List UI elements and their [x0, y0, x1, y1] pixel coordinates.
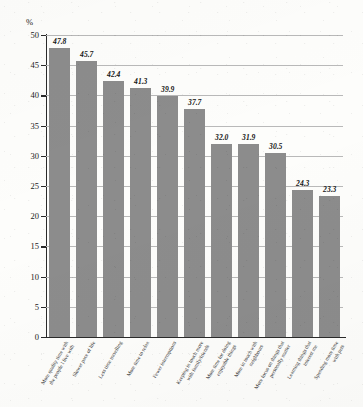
category-label-line: Fewer interruptions: [151, 340, 178, 379]
plot-area: 05101520253035404550 47.845.742.441.339.…: [46, 35, 343, 337]
y-axis-tick-mark: [41, 337, 46, 338]
bar-value-label: 31.9: [242, 133, 255, 142]
bar[interactable]: [103, 81, 125, 337]
bar[interactable]: [184, 109, 206, 337]
bar-group[interactable]: 32.0: [211, 35, 233, 337]
bar-group[interactable]: 30.5: [265, 35, 287, 337]
x-axis-category-label: Fewer interruptions: [151, 340, 178, 379]
bar-value-label: 32.0: [215, 133, 228, 142]
bar-value-label: 47.8: [53, 37, 66, 46]
bar[interactable]: [76, 61, 98, 337]
bar-group[interactable]: 31.9: [238, 35, 260, 337]
bar-value-label: 42.4: [107, 70, 120, 79]
bar[interactable]: [319, 196, 341, 337]
y-axis-tick-label: 25: [31, 181, 40, 191]
y-axis-tick-label: 5: [35, 302, 39, 312]
y-axis-tick-label: 10: [31, 272, 40, 282]
y-axis-tick-label: 20: [31, 211, 40, 221]
category-label-line: Less time travelling: [96, 340, 123, 380]
y-axis-tick-label: 45: [31, 60, 40, 70]
bar-value-label: 39.9: [161, 85, 174, 94]
bar-group[interactable]: 24.3: [292, 35, 314, 337]
y-axis-tick-label: 30: [31, 151, 40, 161]
y-axis-tick-label: 35: [31, 121, 40, 131]
bar-group[interactable]: 45.7: [76, 35, 98, 337]
bar-group[interactable]: 39.9: [157, 35, 179, 337]
bars-layer: 47.845.742.441.339.937.732.031.930.524.3…: [46, 35, 343, 337]
bar[interactable]: [265, 153, 287, 337]
y-axis-title: %: [26, 17, 33, 27]
x-axis-category-label: Less time travelling: [96, 340, 123, 380]
bar[interactable]: [130, 88, 152, 337]
bar[interactable]: [49, 48, 71, 337]
bar[interactable]: [211, 144, 233, 337]
x-axis-category-label: More time to relax: [125, 340, 151, 378]
bar-group[interactable]: 23.3: [319, 35, 341, 337]
x-axis-spine: [46, 337, 346, 338]
bar-value-label: 30.5: [269, 142, 282, 151]
bar-value-label: 41.3: [134, 77, 147, 86]
x-axis-category-label: Keeping in touch morewith family/friends: [174, 340, 210, 389]
y-axis-tick-label: 15: [31, 241, 40, 251]
y-axis-tick-label: 0: [35, 332, 39, 342]
bar-value-label: 45.7: [80, 50, 93, 59]
bar-group[interactable]: 41.3: [130, 35, 152, 337]
y-axis-tick-label: 40: [31, 90, 40, 100]
bar-value-label: 23.3: [323, 185, 336, 194]
bar[interactable]: [238, 144, 260, 337]
y-axis-tick-label: 50: [31, 30, 40, 40]
bar[interactable]: [157, 96, 179, 337]
bar[interactable]: [292, 190, 314, 337]
x-axis-category-labels: More quality time withthe people I live …: [46, 340, 346, 406]
bar-group[interactable]: 42.4: [103, 35, 125, 337]
bar-chart: % 05101520253035404550 47.845.742.441.33…: [0, 0, 363, 407]
bar-value-label: 37.7: [188, 98, 201, 107]
bar-group[interactable]: 37.7: [184, 35, 206, 337]
x-axis-category-label: More quality time withthe people I live …: [39, 340, 75, 389]
bar-value-label: 24.3: [296, 179, 309, 188]
category-label-line: More time to relax: [125, 340, 151, 378]
bar-group[interactable]: 47.8: [49, 35, 71, 337]
